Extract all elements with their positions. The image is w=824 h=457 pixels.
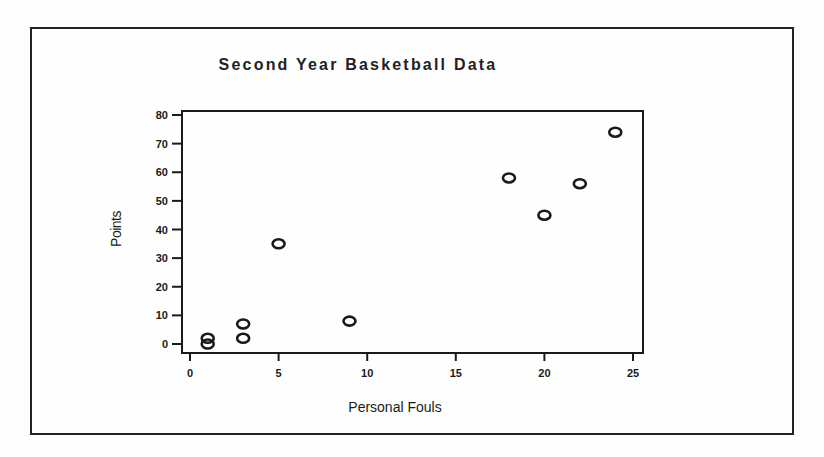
data-point	[503, 173, 515, 182]
data-point	[609, 128, 621, 137]
y-axis-label: Points	[108, 211, 124, 247]
x-tick-label: 5	[276, 367, 282, 379]
data-points	[202, 128, 622, 349]
y-tick-label: 20	[156, 281, 168, 293]
plot-area	[182, 111, 643, 353]
y-tick-label: 10	[156, 309, 168, 321]
data-point	[574, 179, 586, 188]
axes: 010203040506070800510152025	[156, 109, 643, 379]
x-axis-label: Personal Fouls	[348, 399, 441, 415]
scatter-plot: 010203040506070800510152025 Personal Fou…	[0, 0, 824, 457]
y-tick-label: 30	[156, 252, 168, 264]
data-point	[343, 317, 355, 326]
data-point	[237, 319, 249, 328]
data-point	[538, 211, 550, 220]
y-tick-label: 50	[156, 195, 168, 207]
x-tick-label: 0	[187, 367, 193, 379]
x-tick-label: 10	[361, 367, 373, 379]
x-tick-label: 20	[538, 367, 550, 379]
data-point	[273, 239, 285, 248]
x-tick-label: 15	[450, 367, 462, 379]
y-tick-label: 60	[156, 166, 168, 178]
y-tick-label: 80	[156, 109, 168, 121]
y-tick-label: 70	[156, 138, 168, 150]
y-tick-label: 40	[156, 224, 168, 236]
data-point	[237, 334, 249, 343]
x-tick-label: 25	[627, 367, 639, 379]
y-tick-label: 0	[162, 338, 168, 350]
